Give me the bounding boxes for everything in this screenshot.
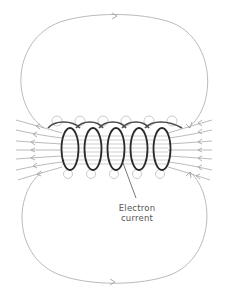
wire-field-circles-top: [52, 116, 177, 126]
field-lines-right: [168, 120, 212, 180]
label-leader-line: [123, 163, 136, 198]
field-loop-top: [21, 15, 208, 129]
label-line-1: Electron: [112, 203, 162, 213]
label-line-2: current: [112, 213, 162, 223]
field-lines-left: [16, 120, 62, 180]
arrow-icons-right: [196, 120, 202, 179]
solenoid-diagram: Electron current: [0, 0, 225, 295]
coil-back-strands: [48, 122, 182, 128]
wire-field-circles-bottom: [64, 170, 165, 179]
field-loop-bottom: [22, 172, 207, 283]
arrow-icon-top-loop: [112, 13, 117, 19]
electron-current-label: Electron current: [112, 203, 162, 223]
arrow-icon-bottom-loop: [110, 279, 115, 285]
diagram-canvas: [0, 0, 225, 295]
